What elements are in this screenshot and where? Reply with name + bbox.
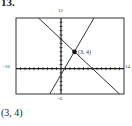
- line-increasing: [50, 18, 94, 94]
- line-decreasing: [39, 18, 120, 94]
- point-label: (3, 4): [78, 49, 91, 56]
- intersection-point: [72, 49, 77, 54]
- answer-text: (3, 4): [1, 107, 23, 118]
